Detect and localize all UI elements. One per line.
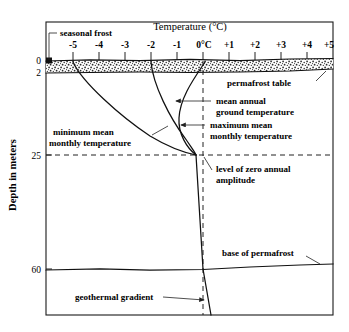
x-tick-label: +2	[250, 40, 260, 50]
x-tick-label: -1	[173, 40, 181, 50]
active-layer-band	[46, 59, 333, 74]
maximum-mean-monthly-label-line2: monthly temperature	[210, 131, 292, 141]
y-tick-label-25: 25	[32, 151, 42, 161]
mean-annual-ground-temperature-label-line1: mean annual	[216, 96, 266, 106]
level-of-zero-annual-amplitude-label-line2: amplitude	[216, 175, 255, 185]
x-tick-label: +5	[324, 40, 334, 50]
x-tick-label: -4	[95, 40, 103, 50]
permafrost-table-label: permafrost table	[227, 78, 291, 88]
level-of-zero-annual-amplitude-label-line1: level of zero annual	[216, 164, 291, 174]
minimum-mean-monthly-label-line1: minimum mean	[53, 127, 114, 137]
y-tick-label-0: 0	[36, 56, 41, 66]
y-tick-label-60: 60	[32, 265, 42, 275]
maximum-mean-monthly-label-line1: maximum mean	[210, 120, 272, 130]
x-tick-label: -5	[69, 40, 77, 50]
x-tick-label-zero: 0°C	[196, 40, 212, 50]
x-tick-label: +3	[276, 40, 286, 50]
x-tick-label: -3	[121, 40, 129, 50]
base-of-permafrost-label: base of permafrost	[222, 248, 294, 258]
geothermal-gradient-label: geothermal gradient	[75, 292, 153, 302]
y-tick-label-2: 2	[36, 68, 41, 78]
x-tick-label: -2	[147, 40, 155, 50]
permafrost-temperature-diagram: Temperature (°C) Depth in meters -5 -4 -…	[0, 0, 349, 332]
y-axis-label: Depth in meters	[7, 139, 18, 211]
x-tick-label: +1	[224, 40, 234, 50]
minimum-mean-monthly-label-line2: monthly temperature	[49, 138, 131, 148]
mean-annual-ground-temperature-label-line2: ground temperature	[216, 107, 294, 117]
x-tick-label: +4	[302, 40, 312, 50]
x-axis-title: Temperature (°C)	[153, 21, 227, 33]
seasonal-frost-label: seasonal frost	[60, 28, 112, 38]
